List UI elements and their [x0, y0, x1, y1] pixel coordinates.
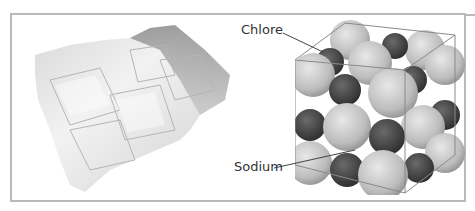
sodium-label: Sodium — [234, 159, 283, 174]
leader-lines — [0, 0, 475, 211]
chlorine-label: Chlore — [241, 22, 283, 37]
